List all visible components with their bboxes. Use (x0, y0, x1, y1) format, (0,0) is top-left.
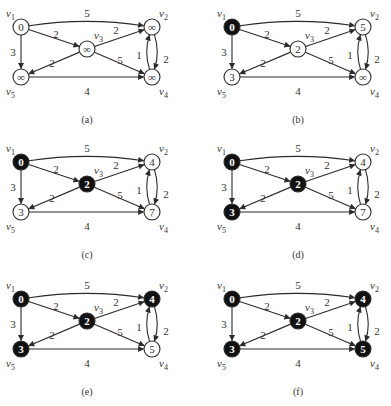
vertex-v2: 4v2 (355, 142, 379, 170)
edge-weight-label: 2 (260, 329, 266, 341)
vertex-name-label: v5 (6, 357, 15, 372)
edge-weight-label: 2 (163, 325, 169, 337)
distance-value: 2 (295, 178, 301, 190)
distance-value: 0 (229, 293, 235, 305)
vertex-v4: ∞v4 (355, 69, 379, 100)
vertex-name-label: v3 (94, 29, 103, 44)
edge-weight-label: 1 (136, 321, 142, 333)
distance-value: ∞ (359, 71, 367, 83)
vertex-v2: ∞v2 (144, 7, 168, 35)
edge-weight-label: 2 (264, 163, 270, 175)
edge-weight-label: 3 (221, 46, 227, 58)
edge-weight-label: 3 (10, 46, 16, 58)
edge-weight-label: 3 (10, 181, 16, 193)
distance-value: ∞ (17, 71, 25, 83)
panel-d: 5232254120v14v22v37v43v5(d) (217, 142, 380, 261)
edge-weight-label: 2 (264, 300, 270, 312)
vertex-name-label: v3 (94, 164, 103, 179)
distance-value: ∞ (83, 43, 91, 55)
vertex-name-label: v1 (6, 142, 15, 157)
edge-weight-label: 4 (84, 220, 90, 232)
edge-weight-label: 2 (260, 192, 266, 204)
distance-value: 4 (360, 293, 366, 305)
edge-v4-v2 (358, 307, 361, 341)
edge-weight-label: 4 (295, 357, 301, 369)
edge-v4-v2 (147, 307, 150, 341)
distance-value: 0 (229, 21, 235, 33)
vertex-name-label: v2 (159, 279, 168, 294)
edge-v2-v4 (365, 35, 368, 69)
edge-v1-v2 (240, 156, 355, 160)
edge-weight-label: 4 (295, 85, 301, 97)
edge-weight-label: 5 (295, 279, 301, 291)
edge-v2-v4 (154, 170, 157, 204)
vertex-v5: 3v5 (6, 204, 29, 235)
vertex-v4: 7v4 (355, 204, 379, 235)
edge-weight-label: 1 (136, 49, 142, 61)
edge-weight-label: 2 (53, 163, 59, 175)
vertex-v4: 5v4 (144, 341, 168, 372)
distance-value: 4 (149, 156, 155, 168)
edge-weight-label: 2 (53, 28, 59, 40)
vertex-v2: 5v2 (355, 7, 379, 35)
vertex-name-label: v4 (159, 357, 168, 372)
vertex-v1: 0v1 (6, 279, 29, 307)
distance-value: 5 (360, 343, 366, 355)
distance-value: 0 (18, 21, 24, 33)
diagram-canvas: 5232254120v1∞v2∞v3∞v4∞v5(a)5232254120v15… (0, 0, 391, 406)
panel-f: 5232254120v14v22v35v43v5(f) (217, 279, 380, 398)
vertex-name-label: v2 (370, 279, 379, 294)
edge-weight-label: 2 (374, 53, 380, 65)
edge-weight-label: 5 (84, 279, 90, 291)
vertex-name-label: v1 (217, 142, 226, 157)
distance-value: 5 (149, 343, 155, 355)
vertex-name-label: v1 (6, 7, 15, 22)
distance-value: 2 (295, 43, 301, 55)
edge-v4-v2 (147, 170, 150, 204)
distance-value: 2 (84, 178, 90, 190)
vertex-name-label: v5 (6, 85, 15, 100)
vertex-name-label: v2 (159, 142, 168, 157)
edge-weight-label: 5 (117, 54, 123, 66)
vertex-v5: 3v5 (217, 341, 240, 372)
vertex-name-label: v1 (6, 279, 15, 294)
vertex-v3: 2v3 (290, 29, 314, 57)
vertex-name-label: v3 (94, 301, 103, 316)
edge-weight-label: 5 (328, 189, 334, 201)
edge-v1-v2 (240, 21, 355, 25)
edge-weight-label: 3 (221, 318, 227, 330)
edge-weight-label: 2 (49, 57, 55, 69)
vertex-v2: 4v2 (144, 279, 168, 307)
distance-value: 0 (18, 156, 24, 168)
vertex-v5: 3v5 (217, 204, 240, 235)
vertex-name-label: v5 (6, 220, 15, 235)
distance-value: 4 (149, 293, 155, 305)
edge-weight-label: 5 (84, 7, 90, 19)
vertex-name-label: v5 (217, 85, 226, 100)
edge-weight-label: 1 (347, 184, 353, 196)
vertex-v3: 2v3 (79, 301, 103, 329)
vertex-name-label: v2 (159, 7, 168, 22)
vertex-name-label: v4 (370, 357, 379, 372)
panel-caption: (d) (292, 249, 304, 261)
distance-value: 4 (360, 156, 366, 168)
vertex-v5: 3v5 (217, 69, 240, 100)
distance-value: 7 (360, 206, 366, 218)
distance-value: 3 (18, 343, 24, 355)
edge-weight-label: 2 (53, 300, 59, 312)
vertex-v3: 2v3 (290, 164, 314, 192)
edge-weight-label: 2 (113, 24, 119, 36)
panel-caption: (c) (81, 249, 92, 261)
distance-value: 5 (360, 21, 366, 33)
edge-v1-v2 (29, 21, 144, 25)
edge-v2-v4 (154, 307, 157, 341)
edge-weight-label: 2 (49, 329, 55, 341)
vertex-v4: 5v4 (355, 341, 379, 372)
vertex-v1: 0v1 (217, 279, 240, 307)
distance-value: 0 (18, 293, 24, 305)
distance-value: 0 (229, 156, 235, 168)
panel-caption: (a) (81, 114, 92, 126)
edge-weight-label: 2 (324, 296, 330, 308)
edge-weight-label: 5 (117, 326, 123, 338)
vertex-name-label: v2 (370, 142, 379, 157)
